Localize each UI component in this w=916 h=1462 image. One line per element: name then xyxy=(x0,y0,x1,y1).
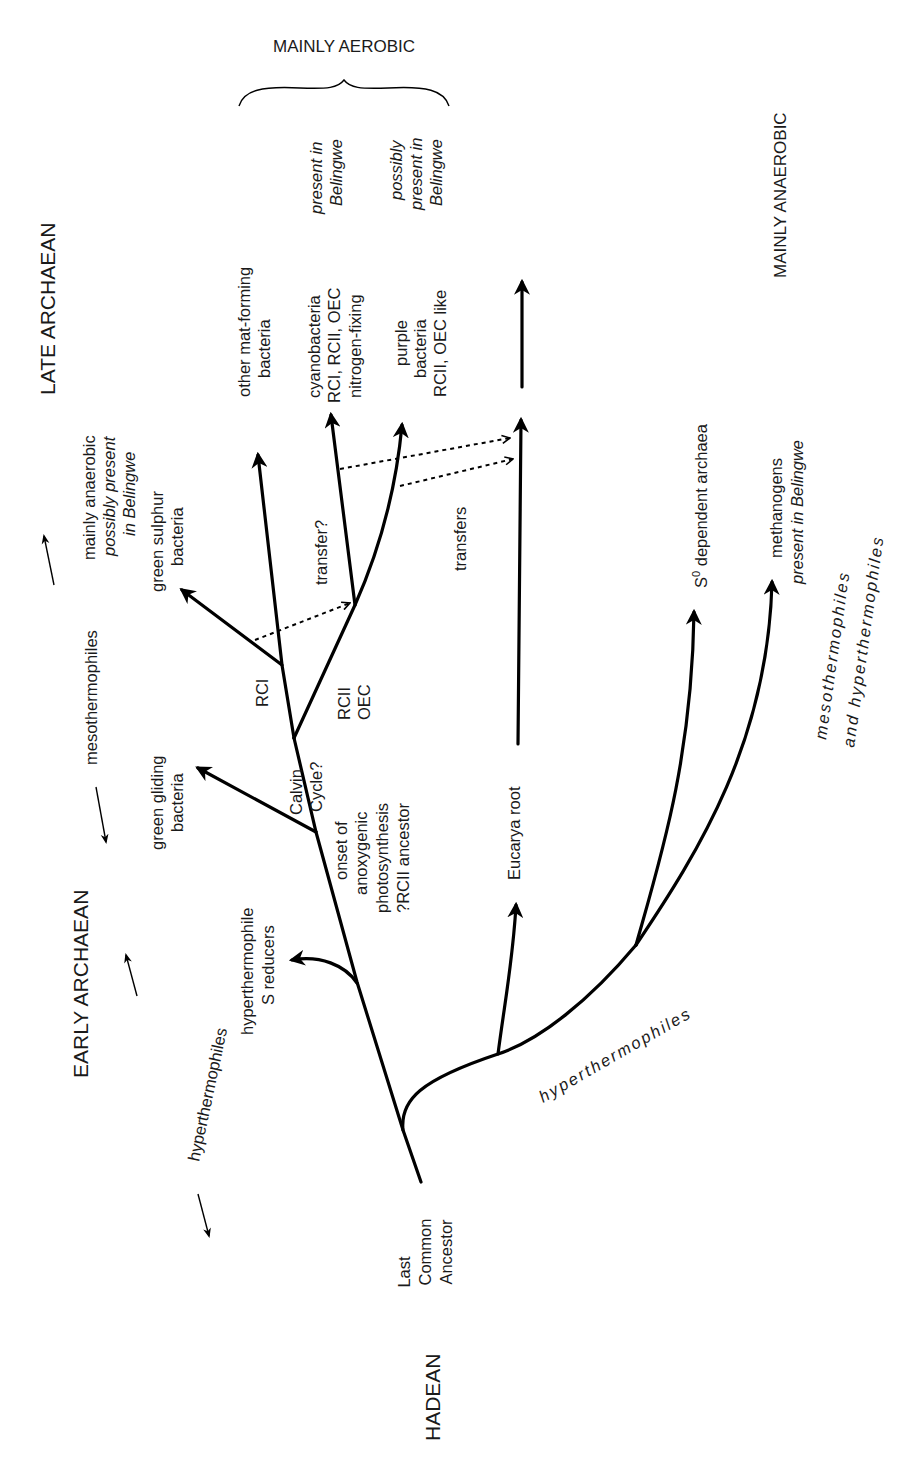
svg-text:Belingwe: Belingwe xyxy=(327,139,345,206)
branch-green-sulphur xyxy=(182,590,282,665)
svg-text:OEC: OEC xyxy=(355,684,373,720)
era-label-late-archaean: LATE ARCHAEAN xyxy=(36,223,59,395)
svg-text:bacteria: bacteria xyxy=(168,772,186,832)
label-green-sulphur-note: mainly anaerobic possibly present in Bel… xyxy=(80,435,138,560)
temperature-axis-hyperthermophiles: hyperthermophiles xyxy=(126,955,230,1236)
label-green-gliding-bacteria: green gliding bacteria xyxy=(148,756,186,851)
root-split-branch xyxy=(403,945,636,1130)
branch-eucarya-main xyxy=(518,420,521,744)
label-cyanobacteria: cyanobacteria RCI, RCII, OEC nitrogen-fi… xyxy=(305,287,364,403)
svg-text:bacteria: bacteria xyxy=(411,318,429,378)
label-transfer-question: transfer? xyxy=(312,520,330,585)
arrow-up-icon xyxy=(44,536,54,585)
label-transfers: transfers xyxy=(451,507,469,571)
svg-text:mainly anaerobic: mainly anaerobic xyxy=(80,435,98,560)
branch-cyanobacteria xyxy=(331,415,355,605)
svg-text:Cycle?: Cycle? xyxy=(307,762,325,812)
label-other-mat-forming: other mat-forming bacteria xyxy=(235,267,273,397)
svg-text:hyperthermophile: hyperthermophile xyxy=(238,908,256,1036)
label-rci: RCI xyxy=(253,679,271,707)
label-methanogens: methanogens present in Belingwe xyxy=(767,440,806,585)
svg-text:S0 dependent archaea: S0 dependent archaea xyxy=(690,423,710,588)
arrow-down-icon xyxy=(96,787,106,842)
arrow-down-icon xyxy=(198,1194,209,1236)
svg-text:bacteria: bacteria xyxy=(168,506,186,566)
era-label-hadean: HADEAN xyxy=(421,1353,444,1441)
transfer-dotted-purple-to-eucarya xyxy=(400,459,513,486)
svg-text:photosynthesis: photosynthesis xyxy=(373,803,391,913)
svg-text:possibly present: possibly present xyxy=(100,435,118,557)
label-purple-note: possibly present in Belingwe xyxy=(387,138,445,211)
svg-text:cyanobacteria: cyanobacteria xyxy=(305,294,323,398)
mainly-aerobic-label: MAINLY AEROBIC xyxy=(273,37,415,56)
svg-text:and hyperthermophiles: and hyperthermophiles xyxy=(839,534,887,748)
arrow-up-icon xyxy=(126,955,137,996)
branch-s0-archaea xyxy=(636,612,694,945)
hyperthermophiles-axis-label: hyperthermophiles xyxy=(184,1026,230,1163)
label-eucarya-root: Eucarya root xyxy=(505,786,523,880)
svg-text:Calvin: Calvin xyxy=(287,769,305,815)
svg-text:in Belingwe: in Belingwe xyxy=(120,452,138,536)
label-purple-bacteria: purple bacteria RCII, OEC like xyxy=(392,290,449,397)
svg-text:present in: present in xyxy=(307,142,325,215)
svg-text:nitrogen-fixing: nitrogen-fixing xyxy=(346,294,364,398)
branch-s-reducers-curve xyxy=(292,959,357,983)
mainly-anaerobic-label: MAINLY ANAEROBIC xyxy=(771,112,790,278)
svg-text:possibly: possibly xyxy=(387,139,405,201)
temperature-axis-mesothermophiles: mesothermophiles xyxy=(44,536,106,842)
root-label: Last Common Ancestor xyxy=(395,1219,455,1288)
aerobic-brace xyxy=(239,80,449,106)
svg-text:RCII, OEC like: RCII, OEC like xyxy=(431,290,449,397)
transfer-dotted-cyano-to-eucarya xyxy=(340,438,510,469)
svg-text:?RCII ancestor: ?RCII ancestor xyxy=(394,802,412,913)
label-hyperthermophile-s-reducers: hyperthermophile S reducers xyxy=(238,908,277,1036)
svg-text:onset of: onset of xyxy=(332,821,350,880)
svg-text:Ancestor: Ancestor xyxy=(437,1219,455,1285)
svg-text:Last: Last xyxy=(395,1256,413,1288)
svg-text:purple: purple xyxy=(392,320,410,366)
svg-text:other mat-forming: other mat-forming xyxy=(235,267,253,397)
label-thermal-note: mesothermophiles and hyperthermophiles xyxy=(811,534,887,748)
svg-text:green gliding: green gliding xyxy=(148,756,166,851)
phylogenetic-tree-diagram: HADEAN EARLY ARCHAEAN LATE ARCHAEAN hype… xyxy=(0,0,916,1462)
label-cyanobacteria-note: present in Belingwe xyxy=(307,139,345,215)
svg-text:present in Belingwe: present in Belingwe xyxy=(788,440,806,585)
svg-text:green sulphur: green sulphur xyxy=(148,491,166,592)
svg-text:RCII: RCII xyxy=(335,687,353,720)
transfer-dotted-green-sulphur-to-rcii xyxy=(255,603,350,640)
svg-text:bacteria: bacteria xyxy=(255,318,273,378)
era-label-early-archaean: EARLY ARCHAEAN xyxy=(69,890,92,1078)
label-onset-anoxygenic: onset of anoxygenic photosynthesis ?RCII… xyxy=(332,802,412,913)
svg-text:S reducers: S reducers xyxy=(259,925,277,1005)
label-s0-dependent-archaea: S0 dependent archaea xyxy=(690,423,710,588)
svg-text:anoxygenic: anoxygenic xyxy=(352,812,370,895)
svg-text:Common: Common xyxy=(416,1219,434,1286)
svg-text:Belingwe: Belingwe xyxy=(427,139,445,206)
svg-text:RCI, RCII, OEC: RCI, RCII, OEC xyxy=(325,287,343,403)
label-green-sulphur-bacteria: green sulphur bacteria xyxy=(148,491,186,592)
branch-methanogens xyxy=(636,582,772,945)
label-rcii-oec: RCII OEC xyxy=(335,684,373,720)
branch-eucarya-root xyxy=(498,905,516,1054)
mesothermophiles-axis-label: mesothermophiles xyxy=(82,630,100,765)
svg-text:methanogens: methanogens xyxy=(767,458,785,558)
svg-text:present in: present in xyxy=(407,138,425,211)
